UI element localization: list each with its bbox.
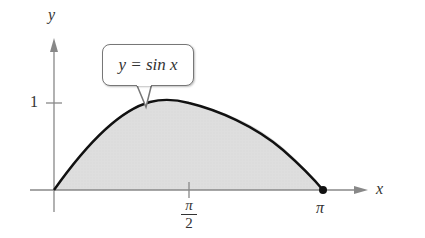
callout-text: y = sin x bbox=[118, 55, 177, 75]
callout-pointer-mask bbox=[137, 82, 151, 86]
shaded-area bbox=[54, 101, 323, 190]
endpoint-marker bbox=[319, 186, 327, 194]
x-tick-label-half-pi: π 2 bbox=[181, 198, 197, 231]
y-axis-label: y bbox=[48, 6, 55, 24]
function-callout: y = sin x bbox=[102, 44, 194, 86]
fraction-numerator: π bbox=[181, 198, 197, 213]
sine-area-diagram: y = sin x y x 1 π π 2 bbox=[0, 0, 425, 238]
x-axis-label: x bbox=[376, 180, 383, 198]
y-axis-arrow bbox=[50, 38, 58, 52]
plot-canvas bbox=[0, 0, 425, 238]
x-axis-arrow bbox=[354, 186, 368, 194]
x-tick-label-pi: π bbox=[316, 199, 324, 217]
y-tick-label-1: 1 bbox=[30, 93, 38, 111]
fraction-denominator: 2 bbox=[181, 216, 197, 231]
